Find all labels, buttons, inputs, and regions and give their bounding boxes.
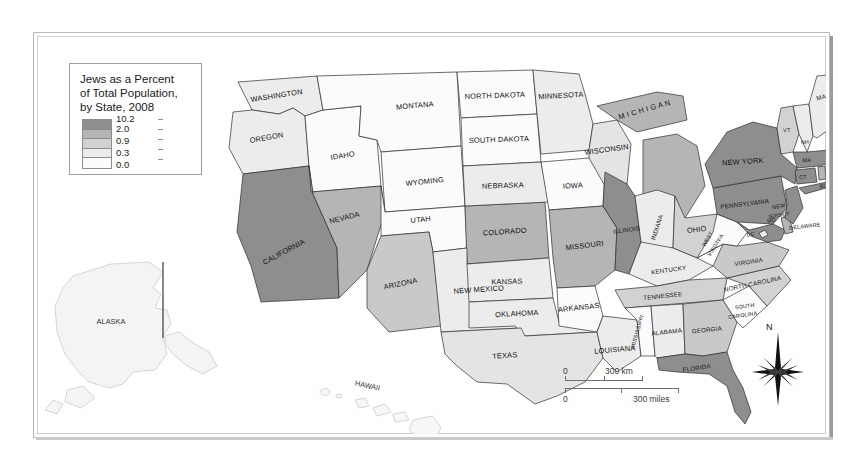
- scalebar-mi-zero: 0: [563, 394, 568, 404]
- legend-swatch-3: [83, 149, 111, 159]
- frame-shadow-right: [830, 36, 833, 440]
- scalebar-mi-rule: [565, 388, 679, 389]
- legend-color-ramp: [82, 119, 112, 169]
- scale-bar: 0 300 km 0 300 miles: [563, 366, 681, 412]
- label-TX: TEXAS: [492, 350, 518, 361]
- label-NE: NEBRASKA: [482, 180, 524, 190]
- compass-rose: N: [752, 322, 808, 406]
- legend-break-4: 0.0: [116, 160, 129, 170]
- label-VT: VT: [783, 127, 791, 134]
- legend-swatch-0: [83, 120, 111, 130]
- legend-break-1: 2.0: [116, 124, 129, 134]
- label-IA: IOWA: [562, 180, 583, 190]
- scalebar-km-tick-0: [565, 376, 566, 381]
- legend-title: Jews as a Percent of Total Population, b…: [80, 72, 198, 114]
- scalebar-km-zero: 0: [563, 366, 568, 376]
- scalebar-mi-tick-end: [678, 388, 679, 393]
- label-AK: ALASKA: [97, 317, 126, 326]
- compass-north-label: N: [766, 322, 773, 332]
- label-CT: CT: [799, 174, 807, 181]
- inset-alaska: [45, 262, 171, 414]
- inset-hawaii: HAWAII: [320, 378, 441, 434]
- inset-alaska-panhandle: [165, 332, 217, 374]
- legend-swatch-4: [83, 158, 111, 168]
- label-MA: MA: [802, 157, 811, 164]
- label-NH: NH: [801, 139, 810, 146]
- legend-break-labels: 10.2 2.0 0.9 0.3 0.0: [116, 113, 166, 175]
- scalebar-km-tick-end: [642, 376, 643, 381]
- scalebar-km-tick-mid: [604, 376, 605, 381]
- compass-star-icon: [752, 322, 808, 406]
- scalebar-mi-tick-0: [565, 388, 566, 393]
- state-RI: [818, 166, 826, 180]
- legend-swatch-2: [83, 139, 111, 149]
- map-page: WASHINGTON OREGON IDAHO MONTANA WYOMING …: [0, 0, 863, 470]
- legend-break-3: 0.3: [116, 148, 129, 158]
- legend-break-2: 0.9: [116, 136, 129, 146]
- scalebar-mi-max: 300 miles: [633, 394, 669, 404]
- label-KS: KANSAS: [491, 276, 522, 286]
- state-NJ: [785, 186, 803, 224]
- legend-swatch-1: [83, 130, 111, 140]
- scalebar-mi-tick-mid: [621, 388, 622, 393]
- frame-shadow-bottom: [36, 437, 833, 440]
- label-HI: HAWAII: [354, 378, 381, 392]
- state-MN: [533, 70, 593, 154]
- scalebar-km-max: 300 km: [605, 366, 633, 376]
- map-legend: Jews as a Percent of Total Population, b…: [69, 63, 202, 175]
